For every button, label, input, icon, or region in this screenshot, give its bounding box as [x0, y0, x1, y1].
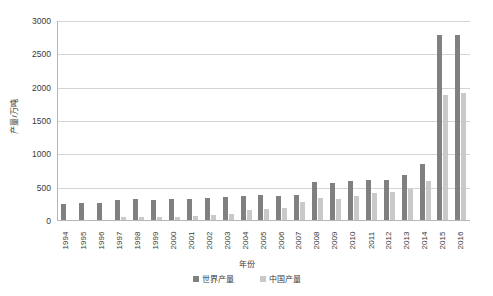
x-axis-title-label: 年份	[239, 260, 255, 269]
legend-item[interactable]: 中国产量	[260, 273, 301, 284]
x-axis-tick: 2009	[326, 223, 344, 263]
bar-world	[79, 203, 84, 220]
bar-group	[362, 21, 380, 220]
bar-world	[151, 200, 156, 220]
x-axis-tick: 2010	[344, 223, 362, 263]
bar-china	[282, 208, 287, 220]
bar-china	[175, 217, 180, 220]
bar-group	[94, 21, 112, 220]
x-axis-tick-label: 2001	[187, 232, 196, 250]
bar-china	[372, 193, 377, 220]
bar-china	[318, 198, 323, 220]
x-axis-tick: 1996	[93, 223, 111, 263]
legend-item[interactable]: 世界产量	[193, 273, 234, 284]
x-axis-tick: 2013	[398, 223, 416, 263]
bar-world	[187, 199, 192, 220]
bar-world	[455, 35, 460, 220]
bar-group	[219, 21, 237, 220]
bar-group	[309, 21, 327, 220]
x-axis-tick: 2011	[362, 223, 380, 263]
bar-china	[390, 192, 395, 220]
bar-world	[115, 200, 120, 220]
x-axis-tick-label: 1996	[97, 232, 106, 250]
bar-china	[193, 216, 198, 220]
x-axis-tick: 2008	[308, 223, 326, 263]
x-axis-tick: 1997	[111, 223, 129, 263]
x-axis-tick: 2001	[183, 223, 201, 263]
bar-group	[380, 21, 398, 220]
x-axis-tick-label: 2008	[313, 232, 322, 250]
x-axis-tick-label: 2011	[367, 232, 376, 249]
x-axis-tick-label: 1994	[61, 232, 70, 250]
y-axis-tick: 1500	[32, 117, 51, 126]
x-axis-tick: 1994	[57, 223, 75, 263]
bar-china	[264, 209, 269, 220]
x-axis-tick: 2005	[254, 223, 272, 263]
x-axis-tick-label: 2007	[295, 232, 304, 250]
bar-group	[345, 21, 363, 220]
bar-world	[312, 182, 317, 220]
x-axis-tick: 2007	[290, 223, 308, 263]
bar-china	[211, 215, 216, 220]
bar-group	[130, 21, 148, 220]
x-axis-tick-label: 1999	[151, 232, 160, 250]
x-axis-tick: 2015	[434, 223, 452, 263]
bar-china	[139, 217, 144, 220]
bar-china	[461, 93, 466, 220]
bar-chart: 产量/万吨 050010001500200025003000 199419951…	[0, 0, 493, 296]
y-axis-tick: 2000	[32, 83, 51, 92]
bar-world	[366, 180, 371, 220]
x-axis-tick: 2003	[219, 223, 237, 263]
x-axis-tick-label: 2000	[169, 232, 178, 250]
bar-group	[327, 21, 345, 220]
legend-label: 中国产量	[269, 273, 301, 284]
bar-group	[58, 21, 76, 220]
x-axis-tick-label: 1997	[115, 232, 124, 250]
y-axis-tick-labels: 050010001500200025003000	[20, 15, 54, 227]
x-axis-tick-label: 1995	[79, 232, 88, 250]
bar-group	[112, 21, 130, 220]
y-axis-tick: 500	[37, 183, 51, 192]
bar-world	[61, 204, 66, 220]
x-axis-tick-label: 2005	[259, 232, 268, 250]
x-axis-tick-label: 2010	[349, 232, 358, 250]
x-axis-tick: 2016	[452, 223, 470, 263]
y-axis-tick: 3000	[32, 17, 51, 26]
bar-china	[157, 217, 162, 220]
x-axis-tick-label: 2012	[385, 232, 394, 250]
x-axis-tick: 1999	[147, 223, 165, 263]
y-axis-tick: 2500	[32, 50, 51, 59]
bar-group	[291, 21, 309, 220]
bar-china	[336, 199, 341, 220]
bar-world	[437, 35, 442, 220]
x-axis-tick: 2006	[272, 223, 290, 263]
x-axis-tick: 1995	[75, 223, 93, 263]
bar-world	[223, 197, 228, 220]
bars-layer	[58, 21, 470, 220]
legend-swatch-icon	[260, 276, 266, 282]
bar-group	[201, 21, 219, 220]
bar-group	[273, 21, 291, 220]
x-axis-tick-label: 2015	[438, 232, 447, 250]
bar-world	[97, 203, 102, 220]
bar-world	[348, 181, 353, 220]
bar-group	[183, 21, 201, 220]
x-axis-tick-label: 2003	[223, 232, 232, 250]
bar-china	[426, 181, 431, 220]
y-axis-title: 产量/万吨	[6, 0, 20, 232]
bar-world	[402, 175, 407, 220]
bar-group	[416, 21, 434, 220]
x-axis-tick: 1998	[129, 223, 147, 263]
x-axis-tick-label: 1998	[133, 232, 142, 250]
bar-china	[229, 214, 234, 220]
bar-china	[408, 189, 413, 220]
bar-world	[169, 199, 174, 220]
bar-group	[255, 21, 273, 220]
bar-world	[294, 195, 299, 220]
bar-group	[398, 21, 416, 220]
legend-swatch-icon	[193, 276, 199, 282]
x-axis-tick: 2004	[237, 223, 255, 263]
bar-china	[247, 210, 252, 220]
x-axis-tick: 2000	[165, 223, 183, 263]
bar-group	[237, 21, 255, 220]
